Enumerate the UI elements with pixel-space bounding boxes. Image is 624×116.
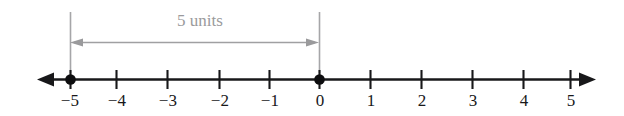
- tick-label-minus-1: −1: [250, 92, 290, 109]
- axis-arrowhead-right-icon: [579, 73, 596, 87]
- axis-arrowhead-left-icon: [37, 73, 54, 87]
- tick-label-plus-4: 4: [504, 92, 544, 109]
- number-line-figure: 5 units −5 −4 −3 −2 −1 0 1 2 3 4 5: [0, 0, 624, 116]
- tick-label-plus-3: 3: [453, 92, 493, 109]
- tick-label-minus-2: −2: [200, 92, 240, 109]
- measure-arrowhead-right-icon: [306, 39, 319, 47]
- tick-label-minus-5: −5: [50, 92, 90, 109]
- tick-label-minus-3: −3: [148, 92, 188, 109]
- tick-label-plus-1: 1: [351, 92, 391, 109]
- measure-arrowhead-left-icon: [70, 39, 83, 47]
- tick-label-plus-2: 2: [402, 92, 442, 109]
- marked-point-minus-5: [65, 74, 76, 85]
- tick-label-zero: 0: [300, 92, 340, 109]
- marked-point-zero: [314, 74, 325, 85]
- tick-label-plus-5: 5: [551, 92, 591, 109]
- measurement-label: 5 units: [120, 12, 280, 29]
- tick-label-minus-4: −4: [97, 92, 137, 109]
